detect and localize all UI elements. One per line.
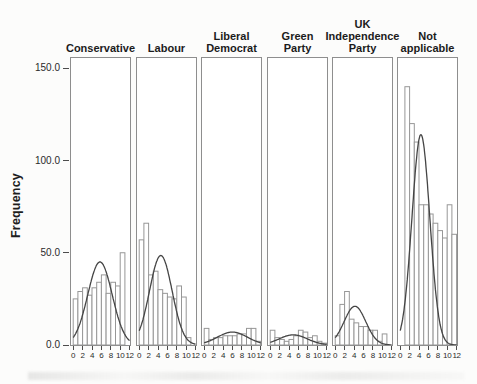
x-axis-tick (289, 346, 290, 350)
x-axis-tick (400, 346, 401, 350)
x-axis-tick (213, 346, 214, 350)
x-axis-tick (241, 346, 242, 350)
x-axis-tick (307, 346, 308, 350)
x-axis-tick (186, 346, 187, 350)
histogram-bar (405, 87, 410, 345)
x-axis-tick (110, 346, 111, 350)
x-axis-tick (437, 346, 438, 350)
x-axis-tick (73, 346, 74, 350)
histogram-bar (363, 327, 368, 345)
x-axis-tick (298, 346, 299, 350)
histogram-bar (97, 282, 102, 345)
histogram-bar (359, 327, 364, 345)
facet-panel-liberal-democrat (201, 57, 262, 346)
x-axis-tick (317, 346, 318, 350)
histogram-bar (354, 323, 359, 345)
histogram-bar (158, 290, 163, 345)
x-axis-tick (326, 346, 327, 350)
x-axis-tick (158, 346, 159, 350)
histogram-bar (438, 231, 443, 345)
x-axis-tick (279, 346, 280, 350)
y-axis-tick (63, 160, 69, 161)
histogram-bar (251, 328, 256, 345)
x-axis-tick (139, 346, 140, 350)
x-axis-tick (456, 346, 457, 350)
facet-plot-green-party (268, 58, 327, 345)
histogram-bar (228, 336, 233, 345)
histogram-bar (443, 238, 448, 345)
histogram-bar (419, 205, 424, 345)
facet-header-line: Not (387, 30, 468, 42)
x-axis-tick (82, 346, 83, 350)
histogram-bar (294, 336, 299, 345)
x-axis-tick (251, 346, 252, 350)
histogram-bar (232, 336, 237, 345)
histogram-bar (92, 288, 97, 345)
y-axis-title: Frequency (9, 106, 24, 306)
histogram-bar (106, 293, 111, 345)
x-axis-tick (409, 346, 410, 350)
histogram-bar (313, 336, 318, 345)
x-axis-tick (382, 346, 383, 350)
histogram-bar (298, 330, 303, 345)
histogram-bar (87, 295, 92, 345)
x-axis-tick (195, 346, 196, 350)
y-axis-tick (63, 345, 69, 346)
x-axis-tick (101, 346, 102, 350)
histogram-bar (349, 319, 354, 345)
facet-header-line: applicable (387, 42, 468, 54)
y-tick-label: 100.0 (18, 155, 60, 166)
x-axis-tick (363, 346, 364, 350)
facet-panel-not-applicable (397, 57, 458, 346)
y-axis-tick (63, 68, 69, 69)
histogram-bar (218, 338, 223, 345)
x-axis-tick (148, 346, 149, 350)
facet-panel-conservative (70, 57, 131, 346)
x-axis-tick (335, 346, 336, 350)
y-axis-tick (63, 252, 69, 253)
x-axis-tick (391, 346, 392, 350)
page-bleed-artifact (28, 372, 465, 380)
facet-header-not-applicable: Notapplicable (387, 30, 468, 54)
histogram-bar (101, 275, 106, 345)
x-tick-label: 12 (449, 351, 465, 360)
y-tick-label: 50.0 (18, 247, 60, 258)
histogram-bar (73, 299, 78, 345)
x-axis-tick (419, 346, 420, 350)
histogram-bar (172, 299, 177, 345)
histogram-bar (153, 271, 158, 345)
x-axis-tick (167, 346, 168, 350)
x-axis-tick (92, 346, 93, 350)
histogram-bar (280, 339, 285, 345)
histogram-bar (289, 339, 294, 345)
x-axis-tick (372, 346, 373, 350)
x-axis-tick (428, 346, 429, 350)
histogram-bar (237, 334, 242, 345)
x-axis-tick (344, 346, 345, 350)
facet-plot-labour (137, 58, 196, 345)
x-axis-tick (447, 346, 448, 350)
histogram-bar (223, 336, 228, 345)
x-axis-tick (270, 346, 271, 350)
facet-header-line: UK (322, 18, 403, 30)
y-tick-label: 0.0 (18, 339, 60, 350)
histogram-bar (83, 288, 88, 345)
x-axis-tick (223, 346, 224, 350)
facet-panel-green-party (267, 57, 328, 346)
x-axis-tick (129, 346, 130, 350)
histogram-bar (452, 234, 457, 345)
x-axis-tick (354, 346, 355, 350)
facet-panel-uk-independence-party (332, 57, 393, 346)
y-tick-label: 150.0 (18, 62, 60, 73)
x-axis-tick (176, 346, 177, 350)
histogram-bar (447, 205, 452, 345)
facet-plot-uk-independence-party (333, 58, 392, 345)
facet-plot-not-applicable (398, 58, 457, 345)
histogram-bar (424, 205, 429, 345)
x-axis-tick (120, 346, 121, 350)
histogram-bar (167, 297, 172, 345)
histogram-bar (284, 341, 289, 345)
histogram-bar (163, 293, 168, 345)
histogram-figure: Frequency Conservative024681012Labour024… (0, 0, 477, 384)
facet-plot-conservative (71, 58, 130, 345)
